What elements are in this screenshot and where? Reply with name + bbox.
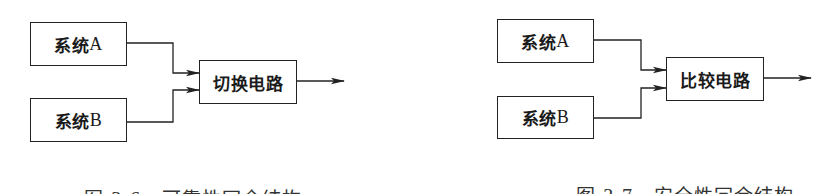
switch-circuit-box: 切换电路 bbox=[199, 60, 297, 104]
system-a-label-latin: A bbox=[556, 31, 570, 52]
caption-gap bbox=[633, 185, 654, 194]
system-a-label-latin: A bbox=[89, 34, 103, 55]
system-b-box: 系统B bbox=[30, 98, 127, 142]
system-b-label-cn: 系统 bbox=[55, 108, 90, 133]
system-b-label-latin: B bbox=[90, 110, 103, 131]
figure-3-7-caption: 图 3-7 安全性冗余结构 bbox=[534, 159, 794, 194]
system-a-label-cn: 系统 bbox=[54, 32, 89, 57]
wire-system-a-to-compare bbox=[593, 40, 666, 70]
caption-prefix: 图 bbox=[576, 185, 603, 194]
system-b-label-latin: B bbox=[557, 107, 570, 128]
system-b-box: 系统B bbox=[497, 96, 594, 139]
diagram-canvas: 系统A 系统B 切换电路 图 3-6 可靠性冗余结构 系统A 系统B 比较电路 … bbox=[0, 0, 828, 194]
caption-title: 可靠性冗余结构 bbox=[162, 188, 302, 194]
caption-title: 安全性冗余结构 bbox=[654, 185, 794, 194]
compare-circuit-label: 比较电路 bbox=[680, 67, 750, 92]
wire-system-a-to-switch bbox=[126, 43, 199, 73]
caption-prefix: 图 bbox=[84, 188, 111, 194]
compare-circuit-box: 比较电路 bbox=[666, 57, 764, 101]
caption-gap bbox=[141, 188, 162, 194]
system-a-box: 系统A bbox=[497, 19, 594, 63]
system-a-label-cn: 系统 bbox=[521, 29, 556, 54]
caption-number: 3-7 bbox=[603, 185, 633, 194]
caption-number: 3-6 bbox=[111, 188, 141, 194]
wire-system-b-to-compare bbox=[593, 88, 666, 118]
system-b-label-cn: 系统 bbox=[522, 105, 557, 130]
system-a-box: 系统A bbox=[30, 22, 127, 66]
wire-system-b-to-switch bbox=[126, 90, 199, 122]
switch-circuit-label: 切换电路 bbox=[213, 70, 283, 95]
figure-3-6-caption: 图 3-6 可靠性冗余结构 bbox=[42, 162, 302, 194]
